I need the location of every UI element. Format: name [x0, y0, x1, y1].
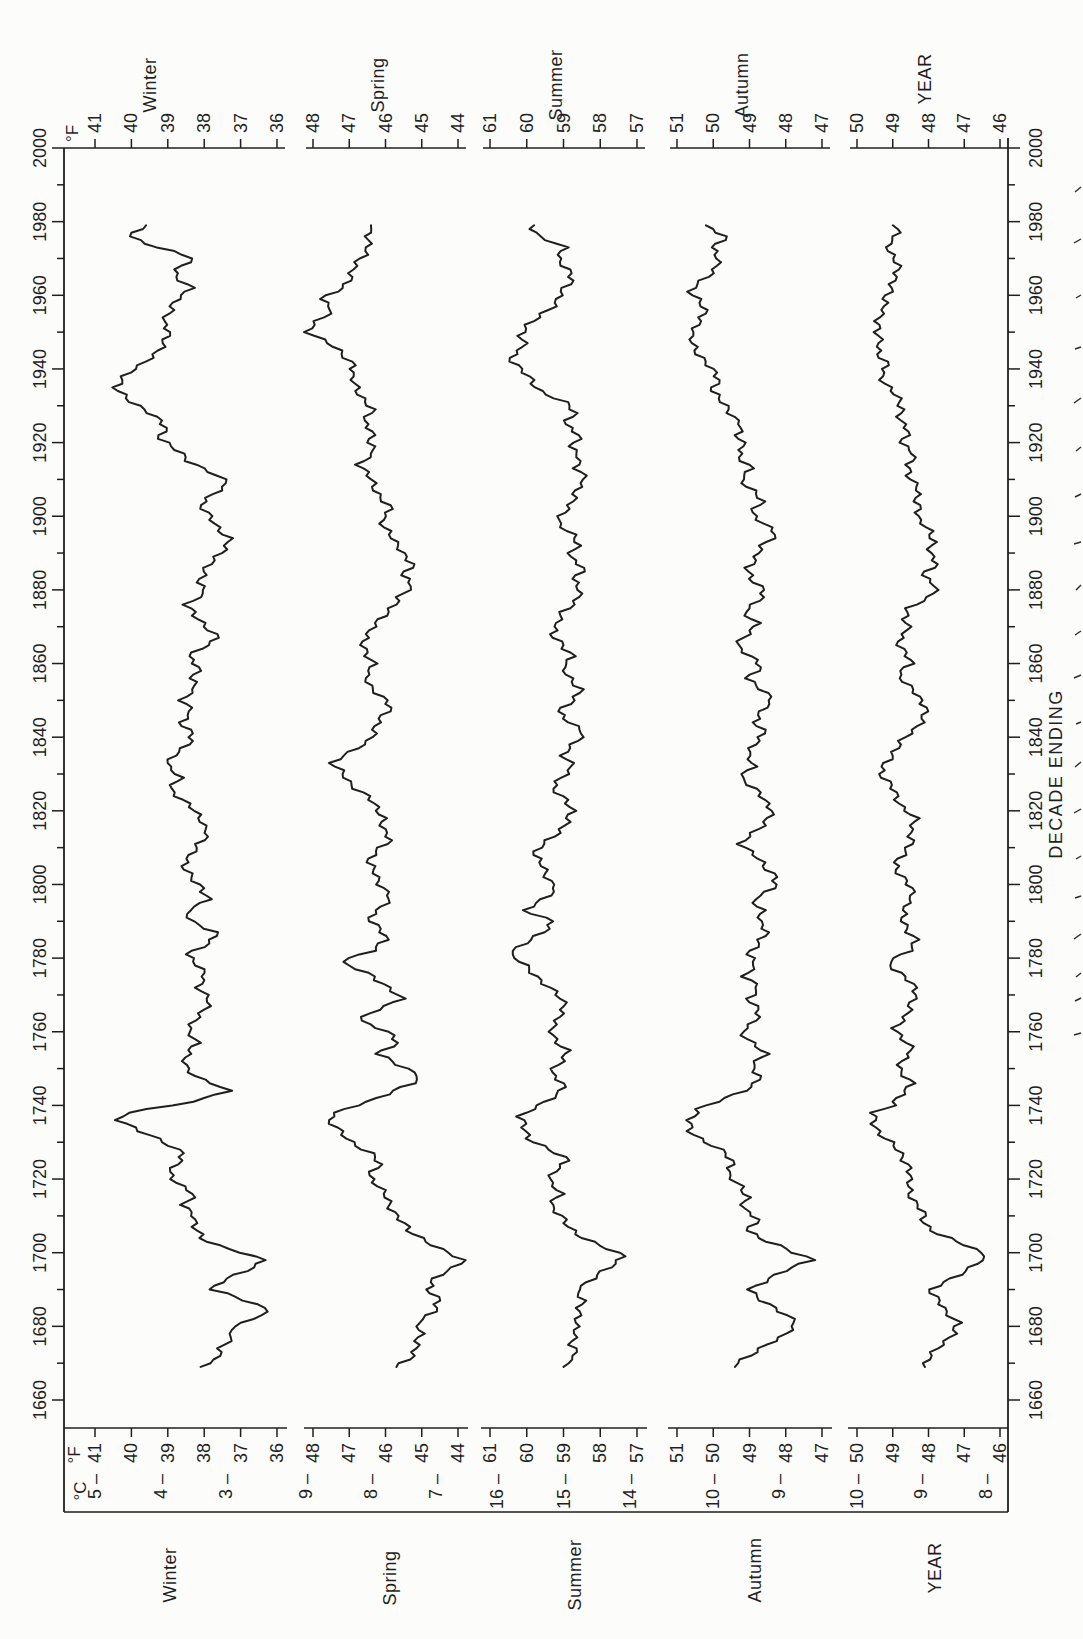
c-tick-label-summer: 14 – — [620, 1474, 640, 1509]
f-tick-label-right-year: 49 — [883, 113, 903, 133]
f-tick-label-left-year: 49 — [883, 1443, 903, 1463]
fahrenheit-header-left-label: °F — [65, 1446, 84, 1463]
year-tick-label-bottom: 1860 — [1026, 644, 1046, 684]
f-tick-label-left-summer: 61 — [480, 1443, 500, 1463]
caption-fragment — [1074, 542, 1081, 544]
f-tick-label-right-autumn: 51 — [667, 113, 687, 133]
caption-fragment — [1075, 187, 1081, 192]
x-axis-title: DECADE ENDING — [1046, 689, 1066, 859]
f-tick-label-right-spring: 47 — [339, 113, 359, 133]
curves-layer — [112, 187, 1081, 1367]
f-tick-label-left-summer: 58 — [590, 1443, 610, 1463]
caption-fragment — [1075, 998, 1081, 1001]
f-tick-label-right-winter: 40 — [121, 113, 141, 133]
c-tick-label-summer: 16 – — [487, 1474, 507, 1509]
caption-fragment — [1074, 398, 1081, 403]
f-tick-label-right-summer: 61 — [480, 113, 500, 133]
year-tick-label-top: 1740 — [30, 1085, 50, 1125]
year-tick-label-top: 1680 — [30, 1306, 50, 1346]
panel-label-left-year: YEAR — [925, 1542, 945, 1593]
f-tick-label-left-spring: 46 — [376, 1443, 396, 1463]
f-tick-label-left-autumn: 49 — [740, 1443, 760, 1463]
c-tick-label-spring: 9 – — [296, 1474, 316, 1499]
caption-fragment — [1075, 494, 1081, 497]
f-tick-label-right-summer: 57 — [627, 113, 647, 133]
f-tick-label-left-winter: 40 — [121, 1443, 141, 1463]
series-line-autumn — [686, 225, 815, 1367]
c-tick-label-winter: 3 – — [216, 1474, 236, 1499]
caption-fragment — [1074, 1033, 1081, 1035]
caption-fragment — [1074, 239, 1081, 243]
caption-fragment — [1074, 934, 1081, 939]
f-tick-label-left-autumn: 51 — [667, 1443, 687, 1463]
f-tick-label-left-summer: 60 — [517, 1443, 537, 1463]
f-tick-label-right-year: 47 — [954, 113, 974, 133]
panel-label-left-autumn: Autumn — [745, 1537, 765, 1602]
c-tick-label-spring: 8 – — [361, 1474, 381, 1499]
f-tick-label-right-spring: 48 — [303, 113, 323, 133]
f-tick-label-left-winter: 36 — [267, 1443, 287, 1463]
caption-fragment — [1076, 585, 1081, 590]
f-tick-label-left-spring: 45 — [412, 1443, 432, 1463]
celsius-header-label: °C — [71, 1481, 90, 1500]
year-tick-label-bottom: 1820 — [1026, 791, 1046, 831]
panel-label-right-year: YEAR — [915, 53, 935, 104]
f-tick-label-right-autumn: 48 — [776, 113, 796, 133]
year-tick-label-bottom: 1920 — [1026, 423, 1046, 463]
caption-fragment — [1074, 675, 1081, 678]
caption-fragment — [1076, 973, 1081, 977]
series-line-spring — [304, 225, 466, 1367]
axes-layer: 1660166016801680170017001720172017401740… — [30, 113, 1046, 1512]
panel-label-right-autumn: Autumn — [732, 52, 752, 117]
panel-label-right-summer: Summer — [546, 49, 566, 120]
f-tick-label-left-autumn: 47 — [812, 1443, 832, 1463]
year-tick-label-top: 1880 — [30, 570, 50, 610]
f-tick-label-left-winter: 41 — [85, 1443, 105, 1463]
year-tick-label-top: 1920 — [30, 423, 50, 463]
caption-fragment — [1076, 295, 1081, 298]
year-tick-label-bottom: 1760 — [1026, 1012, 1046, 1052]
f-tick-label-right-winter: 38 — [194, 113, 214, 133]
f-tick-label-right-year: 50 — [847, 113, 867, 133]
year-tick-label-top: 1960 — [30, 275, 50, 315]
year-tick-label-bottom: 1680 — [1026, 1306, 1046, 1346]
caption-fragment — [1076, 722, 1081, 724]
panel-label-left-winter: Winter — [160, 1547, 180, 1602]
f-tick-label-left-winter: 38 — [194, 1443, 214, 1463]
year-tick-label-bottom: 1940 — [1026, 349, 1046, 389]
year-tick-label-top: 1900 — [30, 496, 50, 536]
year-tick-label-top: 1760 — [30, 1012, 50, 1052]
f-tick-label-right-spring: 44 — [448, 113, 468, 133]
panel-label-right-spring: Spring — [368, 57, 388, 112]
year-tick-label-bottom: 2000 — [1026, 128, 1046, 168]
f-tick-label-left-autumn: 50 — [703, 1443, 723, 1463]
f-tick-label-right-summer: 60 — [517, 113, 537, 133]
c-tick-label-summer: 15 – — [554, 1474, 574, 1509]
year-tick-label-bottom: 1960 — [1026, 275, 1046, 315]
year-tick-label-bottom: 1840 — [1026, 717, 1046, 757]
f-tick-label-left-summer: 59 — [554, 1443, 574, 1463]
c-tick-label-autumn: 10 – — [703, 1474, 723, 1509]
f-tick-label-right-winter: 36 — [267, 113, 287, 133]
year-tick-label-top: 1780 — [30, 938, 50, 978]
caption-fragment — [1075, 762, 1081, 767]
year-tick-label-top: 1800 — [30, 864, 50, 904]
f-tick-label-right-year: 46 — [990, 113, 1010, 133]
c-tick-label-year: 9 – — [911, 1474, 931, 1499]
c-tick-label-autumn: 9 – — [769, 1474, 789, 1499]
year-tick-label-top: 1860 — [30, 644, 50, 684]
fahrenheit-header-right-label: °F — [63, 125, 82, 142]
f-tick-label-right-autumn: 50 — [703, 113, 723, 133]
f-tick-label-left-autumn: 48 — [776, 1443, 796, 1463]
f-tick-label-right-spring: 45 — [412, 113, 432, 133]
year-tick-label-top: 1720 — [30, 1159, 50, 1199]
f-tick-label-right-year: 48 — [919, 113, 939, 133]
f-tick-label-left-winter: 39 — [158, 1443, 178, 1463]
year-tick-label-top: 1940 — [30, 349, 50, 389]
f-tick-label-right-summer: 58 — [590, 113, 610, 133]
f-tick-label-left-year: 47 — [954, 1443, 974, 1463]
year-tick-label-bottom: 1800 — [1026, 864, 1046, 904]
year-tick-label-top: 1840 — [30, 717, 50, 757]
caption-fragment — [1074, 809, 1081, 813]
year-tick-label-bottom: 1880 — [1026, 570, 1046, 610]
